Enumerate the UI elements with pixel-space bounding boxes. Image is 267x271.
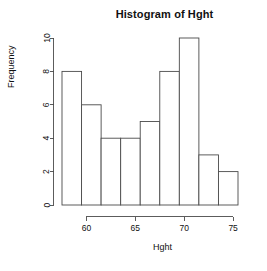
y-axis-tick-label: 6: [42, 102, 52, 107]
bars-group: [62, 38, 238, 205]
x-axis-tick-label: 60: [82, 223, 92, 233]
histogram-bar: [140, 122, 160, 206]
histogram-bar: [121, 138, 141, 205]
y-axis-tick-label: 0: [42, 202, 52, 207]
x-axis: 60657075: [82, 217, 238, 233]
histogram-canvas: 0246810 60657075: [0, 0, 267, 271]
y-axis-tick-label: 8: [42, 69, 52, 74]
x-axis-tick-label: 75: [228, 223, 238, 233]
histogram-bar: [218, 172, 238, 205]
y-axis: 0246810: [42, 33, 54, 207]
histogram-bar: [160, 71, 180, 205]
histogram-bar: [82, 105, 102, 205]
histogram-bar: [62, 71, 82, 205]
y-axis-tick-label: 4: [42, 136, 52, 141]
histogram-bar: [101, 138, 121, 205]
histogram-bar: [179, 38, 199, 205]
y-axis-tick-label: 2: [42, 169, 52, 174]
y-axis-tick-label: 10: [42, 33, 52, 43]
x-axis-tick-label: 65: [131, 223, 141, 233]
histogram-plot-root: Histogram of Hght Frequency Hght 0246810…: [0, 0, 267, 271]
x-axis-tick-label: 70: [179, 223, 189, 233]
histogram-bar: [199, 155, 219, 205]
